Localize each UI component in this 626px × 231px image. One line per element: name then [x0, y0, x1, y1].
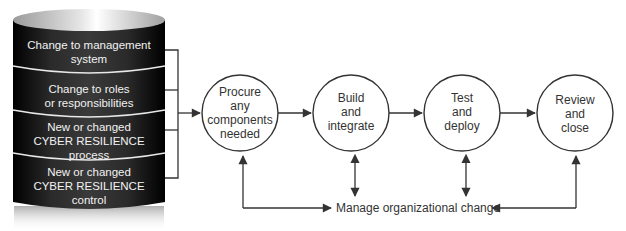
- band-label-process: New or changed CYBER RESILIENCE process: [13, 119, 165, 163]
- step-label-test: Test and deploy: [426, 90, 498, 134]
- step-line: integrate: [328, 119, 375, 133]
- step-line: Review: [555, 93, 594, 107]
- step-line: close: [561, 121, 589, 135]
- band-line: Change to management: [27, 38, 150, 52]
- band-bracket: [165, 50, 200, 178]
- step-line: Procure: [219, 85, 261, 99]
- step-line: Test: [451, 91, 473, 105]
- band-label-management-system: Change to management system: [13, 36, 165, 68]
- band-line: or responsibilities: [45, 96, 134, 110]
- band-line: system: [71, 52, 107, 66]
- band-line: CYBER RESILIENCE: [33, 134, 144, 148]
- step-label-procure: Procure any components needed: [204, 85, 276, 141]
- step-label-review: Review and close: [539, 92, 611, 136]
- band-line: Change to roles: [48, 82, 129, 96]
- band-line: New or changed: [47, 165, 131, 179]
- step-line: and: [341, 105, 361, 119]
- cylinder-reflection: [14, 206, 164, 231]
- band-label-roles: Change to roles or responsibilities: [13, 80, 165, 112]
- step-label-build: Build and integrate: [315, 90, 387, 134]
- step-line: and: [565, 107, 585, 121]
- manage-organizational-change-label: Manage organizational change: [336, 201, 496, 215]
- band-label-control: New or changed CYBER RESILIENCE control: [13, 164, 165, 208]
- band-line: process: [69, 148, 109, 162]
- process-diagram: Change to management system Change to ro…: [0, 0, 626, 231]
- step-line: Build: [338, 91, 365, 105]
- cylinder-top: [13, 9, 165, 31]
- band-line: New or changed: [47, 120, 131, 134]
- step-line: needed: [220, 127, 260, 141]
- step-line: components: [207, 113, 272, 127]
- step-line: and: [452, 105, 472, 119]
- step-line: any: [230, 99, 249, 113]
- step-line: deploy: [444, 119, 479, 133]
- band-line: CYBER RESILIENCE: [33, 179, 144, 193]
- band-line: control: [72, 193, 107, 207]
